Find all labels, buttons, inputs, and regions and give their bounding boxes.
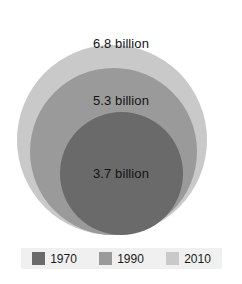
legend-item-2010: 2010 xyxy=(166,252,211,265)
legend-swatch-2010 xyxy=(166,252,179,265)
legend-label-1990: 1990 xyxy=(117,253,144,265)
legend-item-1990: 1990 xyxy=(99,252,144,265)
bubble-label-1990: 5.3 billion xyxy=(0,93,242,108)
legend-item-1970: 1970 xyxy=(32,252,77,265)
chart-legend: 1970 1990 2010 xyxy=(21,248,222,269)
population-bubble-chart: 6.8 billion 5.3 billion 3.7 billion 1970… xyxy=(0,0,242,284)
legend-label-2010: 2010 xyxy=(184,253,211,265)
legend-swatch-1990 xyxy=(99,252,112,265)
bubble-label-2010: 6.8 billion xyxy=(0,36,242,51)
bubble-label-1970: 3.7 billion xyxy=(0,166,242,181)
bubble-plot-area: 6.8 billion 5.3 billion 3.7 billion xyxy=(0,0,242,242)
legend-swatch-1970 xyxy=(32,252,45,265)
legend-label-1970: 1970 xyxy=(50,253,77,265)
